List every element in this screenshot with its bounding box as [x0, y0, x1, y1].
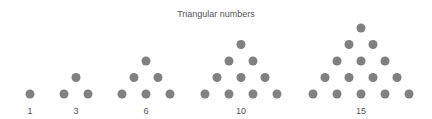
dot	[249, 57, 258, 66]
dot	[333, 57, 342, 66]
triangle-label: 6	[143, 106, 148, 116]
dot	[381, 90, 390, 99]
dot	[345, 73, 354, 82]
dot	[142, 90, 151, 99]
dot	[309, 90, 318, 99]
dot	[405, 90, 414, 99]
dot	[369, 40, 378, 49]
triangular-numbers-diagram	[0, 0, 432, 119]
triangle-label: 1	[27, 106, 32, 116]
dot	[249, 90, 258, 99]
dot	[60, 90, 69, 99]
dot	[118, 90, 127, 99]
dot	[166, 90, 175, 99]
dot	[345, 40, 354, 49]
dot	[261, 73, 270, 82]
dot	[225, 90, 234, 99]
triangle-10	[201, 40, 282, 99]
dot	[213, 73, 222, 82]
triangle-label: 10	[236, 106, 246, 116]
triangle-label: 3	[73, 106, 78, 116]
dot	[237, 40, 246, 49]
dot	[273, 90, 282, 99]
dot	[72, 73, 81, 82]
dot	[26, 90, 35, 99]
triangle-label: 15	[356, 106, 366, 116]
dot	[393, 73, 402, 82]
dot	[381, 57, 390, 66]
dot	[201, 90, 210, 99]
triangle-6	[118, 57, 175, 99]
dot	[333, 90, 342, 99]
dot	[357, 24, 366, 33]
dot	[237, 73, 246, 82]
triangle-1	[26, 90, 35, 99]
dot	[84, 90, 93, 99]
dot	[225, 57, 234, 66]
dot	[142, 57, 151, 66]
dot	[154, 73, 163, 82]
dot	[130, 73, 139, 82]
dot	[321, 73, 330, 82]
dot	[357, 57, 366, 66]
dot	[369, 73, 378, 82]
dot	[357, 90, 366, 99]
triangle-15	[309, 24, 414, 99]
triangle-3	[60, 73, 93, 99]
